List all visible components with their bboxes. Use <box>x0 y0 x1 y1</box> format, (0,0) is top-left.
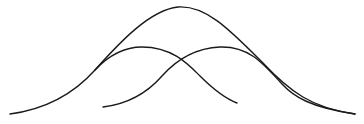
bell-curves-diagram <box>0 0 364 124</box>
caption <box>0 112 364 124</box>
left-component-curve <box>95 47 237 103</box>
